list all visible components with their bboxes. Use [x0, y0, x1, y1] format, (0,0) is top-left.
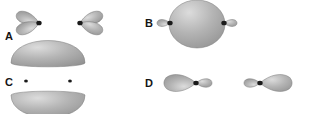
left-small-lobe-group-nucleus	[167, 21, 172, 26]
right-small-lobe-group-nucleus	[221, 21, 226, 26]
lower-dome	[11, 91, 85, 114]
upper-right-lobe	[78, 9, 105, 28]
panel-a-orbitals	[0, 0, 310, 114]
left-orbital-nucleus	[193, 81, 198, 86]
panel-label-d: D	[145, 78, 153, 89]
right-small-lobe	[244, 79, 260, 88]
left-large-lobe	[164, 74, 196, 91]
panel-label-c: C	[5, 77, 13, 88]
left-small-lobe	[196, 79, 212, 88]
panel-label-a: A	[5, 31, 13, 42]
upper-dome	[11, 41, 85, 67]
left-small-lobe	[157, 20, 170, 27]
right-orbital-nucleus	[257, 81, 262, 86]
central-sphere	[169, 0, 225, 48]
upper-left-lobe	[14, 9, 41, 28]
orbital-figure: ABCD	[0, 0, 310, 114]
left-p-orbital-pair-nucleus	[36, 21, 41, 26]
right-small-lobe	[224, 20, 237, 27]
panel-b-orbitals	[0, 0, 310, 114]
right-p-orbital-pair-nucleus	[77, 21, 82, 26]
panel-label-b: B	[145, 18, 153, 29]
lower-right-lobe	[78, 18, 105, 37]
left-nucleus	[24, 79, 28, 82]
right-large-lobe	[260, 74, 292, 91]
lower-left-lobe	[14, 18, 41, 37]
panel-d-orbitals	[0, 0, 310, 114]
right-nucleus	[68, 79, 72, 82]
panel-c-orbitals	[0, 0, 310, 114]
